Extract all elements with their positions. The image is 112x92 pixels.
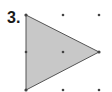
grid-dot [24,88,27,91]
grid-dot [62,14,65,17]
grid-dot [97,50,100,53]
grid-dot [62,89,65,92]
grid-dot [98,89,101,92]
grid-dot [62,51,65,54]
dot-grid-figure [0,0,112,92]
grid-dot [98,14,101,17]
grid-dot [25,51,28,54]
grid-dot [24,13,27,16]
